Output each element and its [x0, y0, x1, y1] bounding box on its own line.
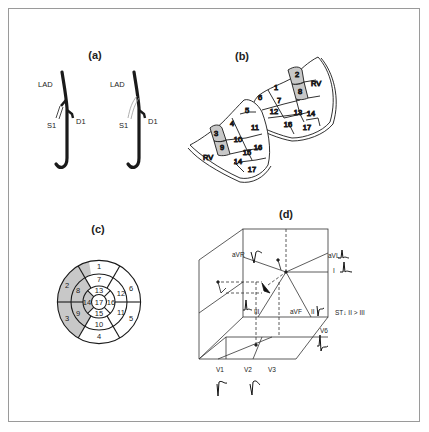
lead-label-ii: II	[311, 308, 315, 315]
artery-diagram-1: LAD S1 D1	[38, 72, 86, 167]
bullseye-plot: 1 2 3 4 5 6 7 8 9 10 11 12 13 14 15 16 1…	[57, 260, 140, 343]
lad-vessel	[56, 72, 67, 167]
lead-label-v3: V3	[268, 366, 276, 373]
s1-branch-outline	[56, 106, 63, 119]
lead-label-avf: aVF	[290, 308, 302, 315]
panel-b: (b) 2 1 8 7 6 12 13 14 16 17 RV	[188, 50, 336, 182]
segment-13: 13	[95, 286, 103, 295]
segment-5: 5	[245, 106, 249, 115]
segment-5: 5	[129, 314, 133, 323]
ecg-iii	[243, 300, 252, 310]
ecg-v1	[217, 381, 227, 396]
panel-a-label: (a)	[88, 49, 102, 61]
ecg-ii	[317, 306, 324, 316]
lead-label-iii: III	[254, 308, 260, 315]
rv-label: RV	[203, 153, 213, 162]
segment-10: 10	[234, 135, 242, 144]
segment-7: 7	[97, 275, 101, 284]
rv-label: RV	[311, 79, 321, 88]
lead-label-avl: aVL	[328, 252, 340, 259]
ecg-avl	[338, 250, 349, 258]
ecg-v2	[250, 381, 260, 395]
lead-label-avr: aVR	[232, 251, 245, 258]
lad-label: LAD	[110, 80, 125, 89]
lad-label: LAD	[38, 80, 53, 89]
lead-label-v1: V1	[216, 366, 224, 373]
s1-label: S1	[47, 121, 56, 130]
segment-1: 1	[97, 262, 101, 271]
segment-15: 15	[243, 148, 251, 157]
lead-label-i: I	[333, 267, 335, 274]
segment-9: 9	[76, 309, 80, 318]
ecg-avr	[251, 251, 262, 263]
segment-17: 17	[303, 123, 311, 132]
lead-vector-cube	[199, 229, 328, 359]
segment-14: 14	[307, 109, 315, 118]
segment-12: 12	[270, 107, 278, 116]
segment-16: 16	[254, 143, 262, 152]
segment-15: 15	[95, 309, 103, 318]
segment-17: 17	[95, 298, 103, 307]
panel-b-label: (b)	[235, 50, 249, 62]
segment-1: 1	[274, 83, 278, 92]
figure-canvas: (a) LAD S1 D1 LAD S1 D1 (b)	[0, 0, 429, 432]
segment-4: 4	[97, 332, 101, 341]
segment-7: 7	[277, 96, 281, 105]
artery-diagram-2: LAD S1 D1	[110, 72, 158, 167]
ecg-i	[340, 262, 352, 272]
d1-label: D1	[76, 117, 86, 126]
panel-c-label: (c)	[91, 223, 105, 235]
panel-d: (d)	[199, 208, 365, 396]
segment-3: 3	[65, 314, 69, 323]
segment-12: 12	[117, 289, 125, 298]
segment-17: 17	[248, 165, 256, 174]
segment-9: 9	[220, 143, 224, 152]
segment-11: 11	[251, 123, 259, 132]
segment-16: 16	[107, 298, 115, 307]
lad-vessel	[128, 72, 139, 167]
segment-10: 10	[95, 320, 103, 329]
segment-2: 2	[65, 281, 69, 290]
lead-label-v2: V2	[244, 366, 252, 373]
segment-16: 16	[284, 120, 292, 129]
lead-label-v6: V6	[320, 327, 328, 334]
segment-3: 3	[214, 129, 218, 138]
segment-8: 8	[76, 286, 80, 295]
segment-6: 6	[258, 93, 262, 102]
segment-2: 2	[295, 70, 299, 79]
segment-14: 14	[234, 157, 242, 166]
segment-8: 8	[298, 87, 302, 96]
segment-11: 11	[117, 308, 125, 317]
lv-half-lower: 3 4 5 9 10 11 15 16 14 17 RV	[188, 100, 271, 183]
panel-c: (c)	[57, 223, 140, 344]
d1-label: D1	[148, 117, 158, 126]
st-annotation: ST↓ II > III	[335, 309, 365, 316]
segment-4: 4	[230, 119, 234, 128]
segment-13: 13	[294, 108, 302, 117]
s1-label: S1	[119, 121, 128, 130]
panel-d-label: (d)	[279, 208, 293, 220]
segment-6: 6	[129, 284, 133, 293]
segment-14: 14	[83, 298, 91, 307]
panel-a: (a) LAD S1 D1 LAD S1 D1	[38, 49, 158, 167]
